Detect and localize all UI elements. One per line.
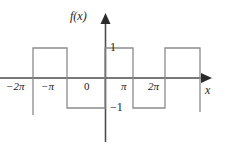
figure-container: f(x) 1 −1 −2π −π 0 π 2π x bbox=[0, 0, 228, 145]
x-tick-label-neg-pi: −π bbox=[41, 81, 54, 92]
value-label-negative-one: −1 bbox=[110, 101, 123, 113]
x-tick-label-two-pi: 2π bbox=[148, 81, 159, 92]
y-axis-arrow-icon bbox=[101, 13, 111, 24]
x-axis-label: x bbox=[205, 84, 210, 96]
y-axis-label: f(x) bbox=[70, 10, 87, 22]
x-tick-label-neg-two-pi: −2π bbox=[6, 81, 24, 92]
value-label-positive-one: 1 bbox=[110, 41, 116, 53]
x-tick-label-pi: π bbox=[121, 81, 127, 92]
x-tick-label-zero: 0 bbox=[84, 81, 90, 92]
square-wave-plot bbox=[0, 0, 228, 145]
x-axis-arrow-icon bbox=[201, 73, 212, 83]
